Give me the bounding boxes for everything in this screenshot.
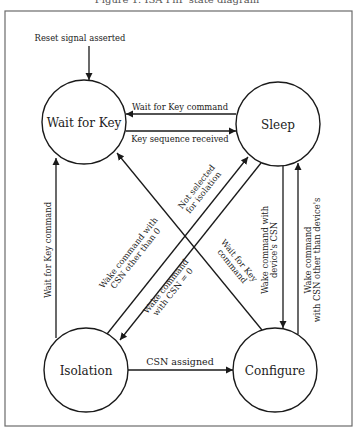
caption-fragment: Figure 1. ISA PnP state diagram [95,0,260,5]
edge-label-sleep-to-wfk: Wait for Key command [132,102,229,112]
edge-label-reset: Reset signal asserted [35,33,126,43]
edge-label-cfg-to-sleep-2: with CSN other than device's [312,198,322,323]
node-label-wait-for-key: Wait for Key [47,116,122,130]
node-wait-for-key: Wait for Key [42,80,126,164]
edge-label-iso-to-cfg: CSN assigned [146,356,213,367]
node-label-configure: Configure [245,364,305,378]
state-diagram: Figure 1. ISA PnP state diagram Reset si… [0,0,354,440]
edge-label-sleep-to-cfg-2: device's CSN [269,222,279,278]
node-sleep: Sleep [236,82,320,166]
edge-label-iso-to-wfk: Wait for Key command [43,201,53,298]
node-isolation: Isolation [44,328,128,412]
node-label-isolation: Isolation [60,364,113,378]
node-label-sleep: Sleep [261,118,295,132]
node-configure: Configure [233,328,317,412]
edge-label-wfk-to-sleep: Key sequence received [131,134,229,144]
